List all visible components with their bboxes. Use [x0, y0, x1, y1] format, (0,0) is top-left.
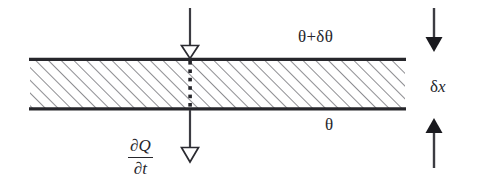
- thickness-arrow-bottom-head: [426, 118, 443, 133]
- thickness-variable-symbol: x: [438, 77, 446, 96]
- heat-flux-rate-label: ∂Q ∂t: [128, 136, 153, 178]
- path-dot: [188, 69, 192, 73]
- thickness-dimension-arrow-top: [426, 8, 443, 52]
- time-symbol: t: [142, 159, 147, 178]
- path-dot: [188, 86, 192, 90]
- diagram-canvas: [0, 0, 477, 185]
- path-dot: [188, 61, 192, 65]
- partial-symbol-denominator: ∂: [134, 159, 142, 178]
- slab-thickness-label: δx: [430, 78, 446, 95]
- path-dot: [188, 78, 192, 82]
- thickness-dimension-arrow-bottom: [426, 118, 443, 168]
- path-dot: [188, 103, 192, 107]
- heat-flow-out-arrow-head: [182, 148, 199, 163]
- slab-hatched-interior: [30, 58, 405, 110]
- path-dot: [188, 95, 192, 99]
- thickness-arrow-top-head: [426, 37, 443, 52]
- heat-flux-numerator: ∂Q: [128, 136, 153, 156]
- heat-flow-in-arrow: [182, 8, 199, 59]
- heat-flow-in-arrow-head: [182, 46, 199, 59]
- heat-flow-out-arrow: [182, 110, 199, 162]
- thermal-conduction-diagram: θ+δθ θ δx ∂Q ∂t: [0, 0, 477, 185]
- heat-flux-denominator: ∂t: [128, 158, 153, 178]
- heat-quantity-symbol: Q: [138, 136, 150, 155]
- slab-group: [29, 58, 406, 110]
- thickness-delta-symbol: δ: [430, 77, 438, 96]
- top-surface-temperature-label: θ+δθ: [298, 28, 333, 45]
- bottom-surface-temperature-label: θ: [325, 116, 333, 133]
- heat-flux-fraction: ∂Q ∂t: [128, 136, 153, 178]
